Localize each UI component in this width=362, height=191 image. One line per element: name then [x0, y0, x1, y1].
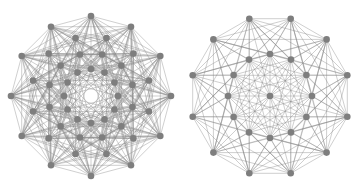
graph-node — [72, 151, 79, 158]
graph-node — [246, 56, 253, 63]
graph-node — [46, 82, 53, 89]
graph-node — [168, 93, 175, 100]
graph-edge — [270, 39, 327, 54]
graph-node — [101, 116, 108, 123]
graph-node — [111, 79, 118, 86]
graph-node — [99, 51, 106, 58]
graph-node — [64, 79, 71, 86]
graph-node — [246, 15, 253, 22]
graph-node — [344, 113, 351, 120]
graph-node — [88, 13, 95, 20]
graph-node — [267, 93, 274, 100]
graph-node — [128, 162, 135, 169]
graph-node — [303, 72, 310, 79]
graph-node — [74, 116, 81, 123]
graph-node — [64, 106, 71, 113]
graph-node — [323, 149, 330, 156]
graph-node — [57, 62, 64, 69]
graph-node — [48, 23, 55, 30]
graph-node — [309, 93, 316, 100]
graph-node — [230, 114, 237, 121]
graph-node — [88, 66, 95, 73]
graph-figure — [0, 0, 362, 191]
graph-node — [128, 23, 135, 30]
graph-edge — [213, 39, 228, 96]
graph-node — [288, 129, 295, 136]
graph-node — [18, 53, 25, 60]
graph-node — [101, 69, 108, 76]
graph-node — [130, 135, 137, 142]
graph-node — [88, 120, 95, 127]
graph-node — [46, 104, 53, 111]
graph-node — [77, 51, 84, 58]
graph-node — [130, 50, 137, 57]
graph-node — [129, 104, 136, 111]
graph-node — [118, 123, 125, 130]
graph-edge — [193, 54, 270, 75]
right-graph-diagram — [189, 15, 350, 176]
graph-node — [189, 113, 196, 120]
graph-node — [288, 56, 295, 63]
graph-node — [157, 133, 164, 140]
graph-node — [99, 134, 106, 141]
graph-node — [115, 93, 122, 100]
graph-edge — [312, 96, 327, 153]
graph-edge — [213, 138, 270, 153]
graph-node — [210, 149, 217, 156]
graph-node — [157, 53, 164, 60]
graph-node — [287, 170, 294, 177]
graph-node — [111, 106, 118, 113]
graph-node — [8, 93, 15, 100]
graph-node — [61, 93, 68, 100]
graph-node — [287, 15, 294, 22]
graph-node — [88, 173, 95, 180]
graph-node — [323, 36, 330, 43]
graph-node — [189, 72, 196, 79]
graph-node — [146, 108, 153, 115]
left-graph-edges — [11, 16, 171, 176]
graph-node — [246, 129, 253, 136]
graph-node — [210, 36, 217, 43]
graph-edge — [270, 117, 347, 138]
graph-node — [72, 35, 79, 42]
graph-node — [30, 108, 37, 115]
graph-node — [57, 123, 64, 130]
graph-node — [246, 170, 253, 177]
graph-node — [103, 151, 110, 158]
graph-node — [267, 135, 274, 142]
left-graph-diagram — [8, 13, 175, 180]
graph-node — [118, 62, 125, 69]
graph-node — [146, 77, 153, 84]
graph-node — [267, 51, 274, 58]
graph-node — [48, 162, 55, 169]
graph-node — [225, 93, 232, 100]
graph-node — [74, 69, 81, 76]
graph-node — [30, 77, 37, 84]
graph-node — [45, 135, 52, 142]
graph-node — [18, 133, 25, 140]
graph-node — [303, 114, 310, 121]
graph-node — [129, 82, 136, 89]
graph-node — [344, 72, 351, 79]
graph-node — [77, 134, 84, 141]
graph-node — [45, 50, 52, 57]
graph-node — [103, 35, 110, 42]
graph-node — [230, 72, 237, 79]
